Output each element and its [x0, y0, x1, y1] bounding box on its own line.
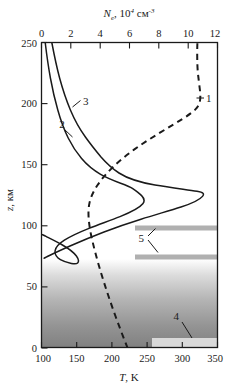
top-tick-6: 12 — [210, 28, 221, 39]
left-title-rest: , км — [3, 189, 15, 207]
svg-text:Ne, 104 см-3: Ne, 104 см-3 — [103, 7, 155, 22]
left-tick-1: 50 — [27, 281, 38, 292]
top-title-rest: , 10 — [114, 7, 131, 19]
left-axis-title: z, км — [3, 189, 15, 212]
top-tick-labels: 0 2 4 6 8 10 12 — [39, 28, 220, 39]
chart-svg: 0 2 4 6 8 10 12 100 150 200 250 300 350 … — [0, 0, 248, 390]
band-4-rect — [152, 338, 218, 348]
bottom-tick-5: 350 — [207, 353, 223, 364]
bottom-tick-2: 200 — [104, 353, 120, 364]
label-curve-3: 3 — [83, 95, 89, 107]
bottom-axis-title: T, K — [119, 371, 139, 383]
left-tick-0: 0 — [32, 343, 37, 354]
top-title-units: см — [134, 7, 149, 19]
label-band-4: 4 — [174, 310, 180, 322]
left-tick-labels: 0 50 100 150 200 250 — [21, 38, 37, 354]
top-tick-5: 10 — [183, 28, 194, 39]
band-5-upper-bar — [135, 226, 218, 231]
top-tick-2: 4 — [98, 28, 104, 39]
figure-container: 0 2 4 6 8 10 12 100 150 200 250 300 350 … — [0, 0, 248, 390]
left-tick-2: 100 — [21, 220, 37, 231]
bottom-tick-1: 150 — [69, 353, 85, 364]
left-tick-4: 200 — [21, 98, 37, 109]
bottom-tick-4: 300 — [174, 353, 190, 364]
left-tick-3: 150 — [21, 159, 37, 170]
left-tick-5: 250 — [21, 38, 37, 49]
top-tick-3: 6 — [127, 28, 132, 39]
svg-text:T, K: T, K — [119, 371, 139, 383]
haze-gradient-band — [42, 259, 218, 348]
label-band-5: 5 — [139, 232, 145, 244]
bottom-tick-0: 100 — [35, 353, 51, 364]
bottom-title-rest: , K — [125, 371, 139, 383]
top-tick-1: 2 — [68, 28, 73, 39]
label-curve-2: 2 — [59, 118, 65, 130]
top-tick-4: 8 — [156, 28, 161, 39]
bottom-tick-3: 250 — [139, 353, 155, 364]
top-tick-0: 0 — [39, 28, 44, 39]
label-curve-1: 1 — [206, 92, 212, 104]
top-title-units-exp: -3 — [149, 7, 155, 15]
top-axis-title: Ne, 104 см-3 — [103, 7, 155, 22]
svg-text:z, км: z, км — [3, 189, 15, 212]
bottom-tick-labels: 100 150 200 250 300 350 — [35, 353, 223, 364]
band-5-lower-bar — [135, 255, 218, 260]
